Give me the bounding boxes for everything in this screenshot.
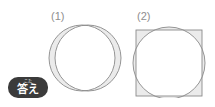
figure-1-lune-left: [44, 18, 126, 98]
answer-badge-label: 答え: [17, 84, 40, 96]
figure-1-overlapping-circles: [44, 18, 126, 98]
answer-badge: こた 答え: [8, 77, 48, 98]
figure-1-svg: [44, 18, 126, 98]
worksheet-answer-figure: (1): [0, 0, 215, 107]
figure-2-svg: [131, 18, 213, 98]
figure-2-square-and-circle: [131, 18, 213, 98]
